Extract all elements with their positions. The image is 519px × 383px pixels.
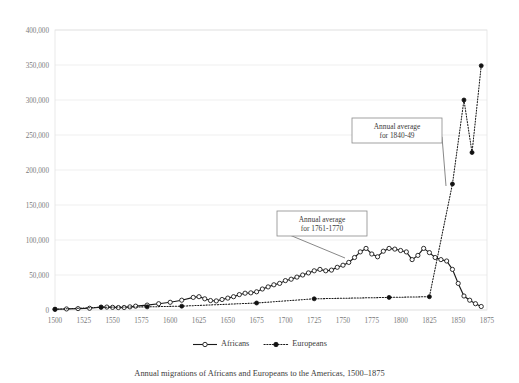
data-point-africans (208, 298, 212, 302)
data-point-africans (433, 255, 437, 259)
data-point-africans (404, 250, 408, 254)
y-axis-tick-label: 0 (45, 307, 49, 315)
data-point-africans (473, 302, 477, 306)
data-point-africans (220, 297, 224, 301)
data-point-africans (197, 295, 201, 299)
data-point-africans (295, 275, 299, 279)
legend-label-europeans: Europeans (292, 340, 327, 348)
legend-item-africans[interactable]: Africans (192, 340, 249, 349)
legend-item-europeans[interactable]: Europeans (263, 340, 327, 349)
x-axis-tick-label: 1750 (336, 317, 351, 325)
migration-line-chart: 050,000100,000150,000200,000250,000300,0… (0, 0, 519, 383)
data-point-africans (439, 258, 443, 262)
data-point-europeans (479, 64, 483, 68)
x-axis-tick-label: 1825 (422, 317, 437, 325)
annotation-line-1: Annual average (374, 122, 421, 131)
annotation-leader-line (442, 137, 446, 186)
data-point-europeans (427, 295, 431, 299)
data-point-africans (370, 252, 374, 256)
data-point-africans (393, 247, 397, 251)
data-point-africans (427, 251, 431, 255)
x-axis-tick-label: 1625 (192, 317, 207, 325)
data-point-africans (445, 259, 449, 263)
data-point-europeans (450, 182, 454, 186)
data-point-africans (237, 293, 241, 297)
data-point-africans (381, 249, 385, 253)
data-point-europeans (255, 301, 259, 305)
annotation-line-2: for 1840-49 (379, 131, 414, 140)
data-point-africans (255, 290, 259, 294)
chart-legend: AfricansEuropeans (0, 340, 519, 349)
data-point-africans (422, 246, 426, 250)
data-point-africans (318, 267, 322, 271)
data-point-africans (157, 302, 161, 306)
annotation-line-2: for 1761-1770 (301, 224, 344, 233)
data-point-africans (347, 260, 351, 264)
data-point-africans (358, 250, 362, 254)
y-axis-tick-label: 50,000 (29, 272, 49, 280)
data-point-africans (329, 268, 333, 272)
x-axis-tick-label: 1650 (221, 317, 236, 325)
legend-label-africans: Africans (221, 340, 249, 348)
y-axis-tick-label: 250,000 (26, 132, 50, 140)
data-point-europeans (387, 295, 391, 299)
data-point-africans (468, 298, 472, 302)
data-point-africans (278, 281, 282, 285)
x-axis-tick-label: 1575 (134, 317, 149, 325)
data-point-europeans (145, 305, 149, 309)
data-point-africans (416, 253, 420, 257)
data-point-africans (283, 279, 287, 283)
data-point-africans (410, 258, 414, 262)
x-axis-tick-label: 1500 (48, 317, 63, 325)
series-line-europeans (55, 66, 481, 310)
x-axis-tick-label: 1725 (307, 317, 322, 325)
data-point-africans (335, 265, 339, 269)
y-axis-tick-label: 200,000 (26, 167, 50, 175)
y-axis-tick-label: 350,000 (26, 62, 50, 70)
y-axis-tick-label: 100,000 (26, 237, 50, 245)
data-point-europeans (312, 297, 316, 301)
data-point-africans (214, 299, 218, 303)
y-axis-tick-label: 400,000 (26, 27, 50, 35)
data-point-africans (134, 304, 138, 308)
data-point-europeans (462, 98, 466, 102)
x-axis-tick-label: 1525 (77, 317, 92, 325)
x-axis-tick-label: 1700 (278, 317, 293, 325)
data-point-africans (312, 269, 316, 273)
legend-swatch-europeans-icon (263, 340, 289, 349)
data-point-europeans (53, 307, 57, 311)
figure-caption: Annual migrations of Africans and Europe… (0, 369, 519, 380)
data-point-africans (479, 304, 483, 308)
data-point-africans (399, 248, 403, 252)
data-point-africans (260, 287, 264, 291)
x-axis-tick-label: 1800 (393, 317, 408, 325)
annotation-line-1: Annual average (299, 215, 346, 224)
data-point-africans (191, 295, 195, 299)
legend-swatch-africans-icon (192, 340, 218, 349)
data-point-africans (375, 255, 379, 259)
x-axis-tick-label: 1775 (365, 317, 380, 325)
data-point-africans (352, 255, 356, 259)
data-point-africans (266, 285, 270, 289)
data-point-africans (341, 263, 345, 267)
data-point-africans (226, 296, 230, 300)
data-point-europeans (180, 304, 184, 308)
data-point-africans (168, 300, 172, 304)
data-point-africans (272, 283, 276, 287)
data-point-africans (450, 267, 454, 271)
data-point-africans (301, 273, 305, 277)
data-point-africans (289, 277, 293, 281)
data-point-africans (456, 281, 460, 285)
data-point-africans (180, 298, 184, 302)
data-point-africans (231, 295, 235, 299)
data-point-africans (203, 297, 207, 301)
x-axis-tick-label: 1600 (163, 317, 178, 325)
data-point-africans (387, 246, 391, 250)
data-point-africans (324, 269, 328, 273)
chart-plot-area: 050,000100,000150,000200,000250,000300,0… (0, 0, 519, 383)
x-axis-tick-label: 1550 (105, 317, 120, 325)
x-axis-tick-label: 1675 (249, 317, 264, 325)
x-axis-tick-label: 1850 (451, 317, 466, 325)
data-point-africans (462, 294, 466, 298)
y-axis-tick-label: 300,000 (26, 97, 50, 105)
